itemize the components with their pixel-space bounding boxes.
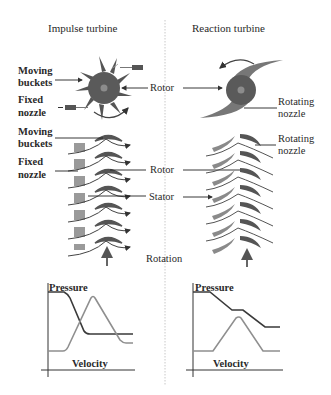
rotor-label-top: Rotor [150, 82, 174, 93]
reaction-velocity-label: Velocity [213, 358, 249, 369]
moving-buckets-label-1a: Moving [18, 65, 52, 76]
impulse-velocity-label: Velocity [72, 358, 108, 369]
impulse-velocity-curve [48, 297, 133, 352]
impulse-nozzle-top [112, 64, 143, 70]
fixed-nozzle-label-1a: Fixed [18, 94, 43, 105]
reaction-pressure-curve [193, 292, 280, 327]
fixed-nozzle-label-2a: Fixed [18, 156, 43, 167]
reaction-flow-lines [206, 143, 273, 243]
reaction-rotor-wheel [200, 60, 283, 118]
rotation-label: Rotation [146, 253, 182, 264]
impulse-moving-buckets [95, 136, 122, 244]
rotor-label-mid: Rotor [150, 164, 174, 175]
reaction-velocity-curve [193, 317, 280, 351]
impulse-stator-blocks [74, 143, 85, 250]
stator-label: Stator [149, 191, 174, 202]
fixed-nozzle-label-2b: nozzle [18, 169, 46, 180]
rotating-nozzle-label-2a: Rotating [278, 133, 314, 144]
rotating-nozzle-label-1b: nozzle [278, 108, 305, 119]
fixed-nozzle-label-1b: nozzle [18, 107, 46, 118]
moving-buckets-label-2a: Moving [18, 126, 52, 137]
impulse-rotation-arrow [94, 108, 128, 118]
rotating-nozzle-label-1a: Rotating [278, 96, 314, 107]
moving-buckets-label-2b: buckets [18, 138, 52, 149]
reaction-turbine-title: Reaction turbine [192, 22, 265, 34]
impulse-turbine-title: Impulse turbine [48, 22, 117, 34]
impulse-nozzle-bottom [58, 105, 88, 110]
rotating-nozzle-label-2b: nozzle [278, 145, 305, 156]
impulse-pressure-label: Pressure [49, 282, 88, 293]
moving-buckets-label-1b: buckets [18, 77, 52, 88]
reaction-pressure-label: Pressure [195, 282, 234, 293]
